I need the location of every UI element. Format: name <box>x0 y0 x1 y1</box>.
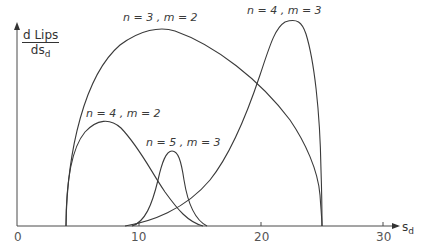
x-tick-label-20: 20 <box>254 230 269 244</box>
x-tick-label-30: 30 <box>376 230 391 244</box>
y-axis-arrow-icon <box>14 22 20 30</box>
chart-canvas <box>0 0 425 248</box>
annotation-n4-m3: n = 4 , m = 3 <box>247 4 322 17</box>
x-axis-arrow-icon <box>392 223 400 229</box>
annotation-n5-m3: n = 5 , m = 3 <box>146 136 221 149</box>
x-tick-label-0: 0 <box>14 230 22 244</box>
curve-n5-m3 <box>132 151 207 226</box>
annotation-n3-m2: n = 3 , m = 2 <box>123 11 198 24</box>
x-axis-label: sd <box>402 220 414 236</box>
y-axis-label: d Lips dsd <box>22 28 59 59</box>
annotation-n4-m2: n = 4 , m = 2 <box>86 107 161 120</box>
x-tick-label-10: 10 <box>131 230 146 244</box>
